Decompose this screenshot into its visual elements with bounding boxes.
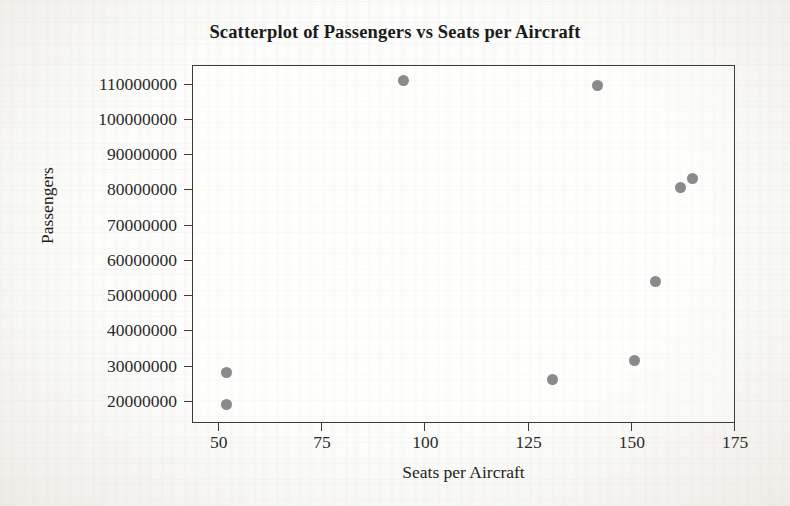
y-axis-tick: 40000000 [184,330,193,331]
data-point [221,367,232,378]
y-axis-tick-label: 30000000 [107,357,177,375]
data-point [675,182,686,193]
x-axis-label: Seats per Aircraft [192,462,735,483]
x-axis-tick-label: 75 [313,434,331,452]
y-axis-tick-label: 80000000 [107,181,177,199]
y-axis-tick: 80000000 [184,189,193,190]
scatterplot-figure: Scatterplot of Passengers vs Seats per A… [0,0,790,506]
x-axis-tick: 100 [424,422,425,431]
data-point [592,80,603,91]
y-axis-tick: 60000000 [184,260,193,261]
x-axis-tick: 150 [631,422,632,431]
y-axis-tick: 20000000 [184,401,193,402]
data-point [650,276,661,287]
y-axis-tick-label: 110000000 [99,76,177,94]
data-point [629,355,640,366]
x-axis-tick: 125 [528,422,529,431]
x-axis-tick: 175 [734,422,735,431]
plot-inner [193,66,734,422]
y-axis-tick-label: 60000000 [107,252,177,270]
y-axis-tick: 90000000 [184,154,193,155]
x-axis-tick-label: 150 [619,434,645,452]
y-axis-tick-label: 40000000 [107,322,177,340]
data-point [398,75,409,86]
y-axis-tick: 110000000 [184,84,193,85]
x-axis-tick: 75 [321,422,322,431]
data-point [221,399,232,410]
chart-title: Scatterplot of Passengers vs Seats per A… [0,22,790,43]
y-axis-tick-label: 90000000 [107,146,177,164]
y-axis-tick-label: 70000000 [107,217,177,235]
y-axis-tick-label: 20000000 [107,393,177,411]
y-axis-label: Passengers [37,167,58,244]
x-axis-tick: 50 [218,422,219,431]
y-axis-tick-label: 50000000 [107,287,177,305]
x-axis-tick-label: 175 [722,434,748,452]
y-axis-tick-label: 100000000 [98,111,177,128]
x-axis-tick-label: 100 [412,434,438,452]
y-axis-tick: 30000000 [184,366,193,367]
y-axis-tick: 100000000 [184,119,193,120]
x-axis-tick-label: 50 [210,434,228,452]
x-axis-tick-label: 125 [515,434,541,452]
data-point [687,173,698,184]
plot-area: 2000000030000000400000005000000060000000… [192,65,735,423]
y-axis-tick: 50000000 [184,295,193,296]
y-axis-tick: 70000000 [184,225,193,226]
data-point [547,374,558,385]
